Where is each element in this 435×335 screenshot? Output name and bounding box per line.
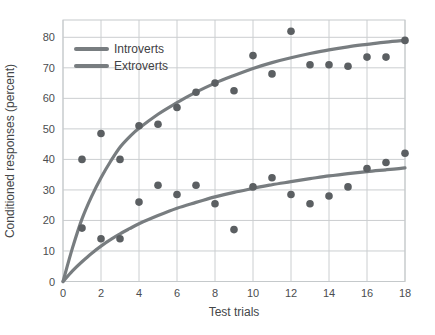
data-point-introverts xyxy=(192,88,200,96)
x-tick-label: 0 xyxy=(60,287,66,299)
data-point-extroverts xyxy=(363,165,371,173)
trend-curves xyxy=(63,40,405,281)
data-point-extroverts xyxy=(382,159,390,167)
y-axis-label: Conditioned responses (percent) xyxy=(3,64,17,238)
x-tick-label: 16 xyxy=(361,287,373,299)
y-tick-label: 10 xyxy=(43,245,55,257)
data-point-introverts xyxy=(230,87,238,95)
data-point-extroverts xyxy=(78,224,86,232)
y-tick-label: 20 xyxy=(43,214,55,226)
data-point-extroverts xyxy=(135,198,143,206)
x-tick-label: 4 xyxy=(136,287,142,299)
x-tick-label: 12 xyxy=(285,287,297,299)
data-point-introverts xyxy=(306,61,314,69)
x-tick-label: 14 xyxy=(323,287,335,299)
data-point-introverts xyxy=(344,63,352,71)
legend-label-introverts: Introverts xyxy=(114,42,164,56)
data-point-extroverts xyxy=(173,191,181,199)
data-point-introverts xyxy=(382,53,390,61)
data-point-extroverts xyxy=(97,235,105,243)
data-point-introverts xyxy=(401,37,409,45)
trend-curve-extroverts xyxy=(63,168,405,282)
y-tick-labels: 01020304050607080 xyxy=(43,31,55,287)
x-tick-label: 18 xyxy=(399,287,411,299)
data-point-extroverts xyxy=(325,192,333,200)
data-point-extroverts xyxy=(268,174,276,182)
data-point-extroverts xyxy=(154,182,162,190)
y-tick-label: 40 xyxy=(43,153,55,165)
data-point-introverts xyxy=(325,61,333,69)
x-tick-label: 10 xyxy=(247,287,259,299)
data-point-extroverts xyxy=(211,200,219,208)
y-tick-label: 70 xyxy=(43,62,55,74)
x-tick-labels: 024681012141618 xyxy=(60,287,411,299)
data-point-extroverts xyxy=(249,183,257,191)
data-point-introverts xyxy=(154,121,162,129)
data-point-introverts xyxy=(135,122,143,130)
data-point-introverts xyxy=(211,79,219,87)
y-tick-label: 50 xyxy=(43,123,55,135)
data-point-extroverts xyxy=(192,182,200,190)
data-point-introverts xyxy=(363,53,371,61)
data-point-extroverts xyxy=(287,191,295,199)
data-point-introverts xyxy=(116,156,124,164)
data-point-introverts xyxy=(287,27,295,35)
data-point-extroverts xyxy=(306,200,314,208)
x-tick-label: 8 xyxy=(212,287,218,299)
x-tick-label: 6 xyxy=(174,287,180,299)
data-point-extroverts xyxy=(344,183,352,191)
data-point-introverts xyxy=(249,52,257,60)
data-point-introverts xyxy=(173,104,181,112)
data-point-extroverts xyxy=(401,150,409,158)
conditioning-responses-chart: 024681012141618 01020304050607080 Test t… xyxy=(0,0,435,335)
x-tick-label: 2 xyxy=(98,287,104,299)
y-tick-label: 80 xyxy=(43,31,55,43)
data-point-introverts xyxy=(268,70,276,78)
data-point-extroverts xyxy=(230,226,238,234)
data-point-extroverts xyxy=(116,235,124,243)
y-tick-label: 60 xyxy=(43,92,55,104)
x-axis-label: Test trials xyxy=(209,305,260,319)
data-point-introverts xyxy=(97,130,105,138)
legend-label-extroverts: Extroverts xyxy=(114,59,168,73)
data-point-introverts xyxy=(78,156,86,164)
trend-curve-introverts xyxy=(63,40,405,281)
y-tick-label: 0 xyxy=(49,276,55,288)
chart-canvas: 024681012141618 01020304050607080 Test t… xyxy=(0,0,435,335)
legend: Introverts Extroverts xyxy=(76,42,168,73)
y-tick-label: 30 xyxy=(43,184,55,196)
